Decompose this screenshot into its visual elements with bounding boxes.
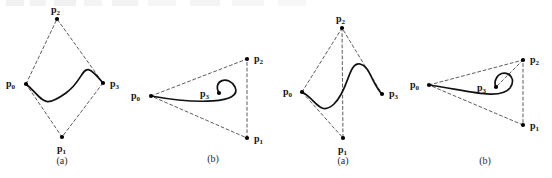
- bezier-figure: p0 p1 p2 p3 (a) p0 p1: [0, 0, 552, 178]
- panel-2: p0 p1 p2 p3 (b): [131, 53, 264, 165]
- panel-1-label-p0: p0: [6, 78, 16, 91]
- panel-1-caption: (a): [56, 155, 67, 167]
- panel-3-control-point-p1: [341, 136, 345, 140]
- figure-canvas: p0 p1 p2 p3 (a) p0 p1: [0, 0, 552, 178]
- panel-1-label-p2: p2: [51, 4, 61, 17]
- panel-2-label-p1: p1: [254, 133, 264, 146]
- panel-3-control-point-p0: [300, 90, 304, 94]
- panel-4-control-point-p1: [521, 123, 525, 127]
- panel-3-caption: (a): [337, 155, 348, 167]
- panel-3-label-p2: p2: [336, 13, 346, 26]
- panel-1-control-point-p0: [24, 82, 28, 86]
- panel-3-label-p3: p3: [389, 88, 399, 101]
- panel-2-control-point-p0: [149, 94, 153, 98]
- panel-4-bezier-curve: [429, 73, 512, 94]
- panel-1-label-p3: p3: [110, 78, 120, 91]
- panel-3-control-point-p2: [340, 26, 344, 30]
- panel-4-caption: (b): [479, 155, 491, 167]
- panel-1-control-point-p3: [101, 81, 105, 85]
- panel-2-control-point-p1: [245, 136, 249, 140]
- panel-2-control-point-p3: [217, 91, 221, 95]
- panel-1-bezier-curve: [26, 70, 103, 102]
- panel-1-control-point-p1: [60, 135, 64, 139]
- panel-4-label-p1: p1: [530, 120, 540, 133]
- panel-2-label-p3: p3: [200, 88, 210, 101]
- panel-2-caption: (b): [207, 153, 219, 165]
- panel-3-label-p0: p0: [283, 86, 293, 99]
- panel-4-label-p2: p2: [530, 54, 540, 67]
- panel-3: p0 p1 p2 p3 (a): [283, 13, 399, 167]
- panel-4-control-point-p2: [521, 58, 525, 62]
- panel-2-control-point-p2: [245, 57, 249, 61]
- panel-3-control-point-p3: [380, 92, 384, 96]
- panel-4: p0 p1 p2 p3 (b): [410, 54, 540, 167]
- panel-3-bezier-curve: [302, 64, 382, 109]
- panel-1-control-polygon: [26, 19, 103, 137]
- panel-2-label-p0: p0: [131, 90, 141, 103]
- panel-4-control-point-p3: [494, 85, 498, 89]
- panel-4-label-p0: p0: [410, 79, 420, 92]
- panel-1-control-point-p2: [55, 17, 59, 21]
- panel-2-label-p2: p2: [254, 53, 264, 66]
- panel-1: p0 p1 p2 p3 (a): [6, 4, 120, 167]
- panel-4-control-point-p0: [427, 83, 431, 87]
- panel-3-control-polygon: [302, 28, 382, 138]
